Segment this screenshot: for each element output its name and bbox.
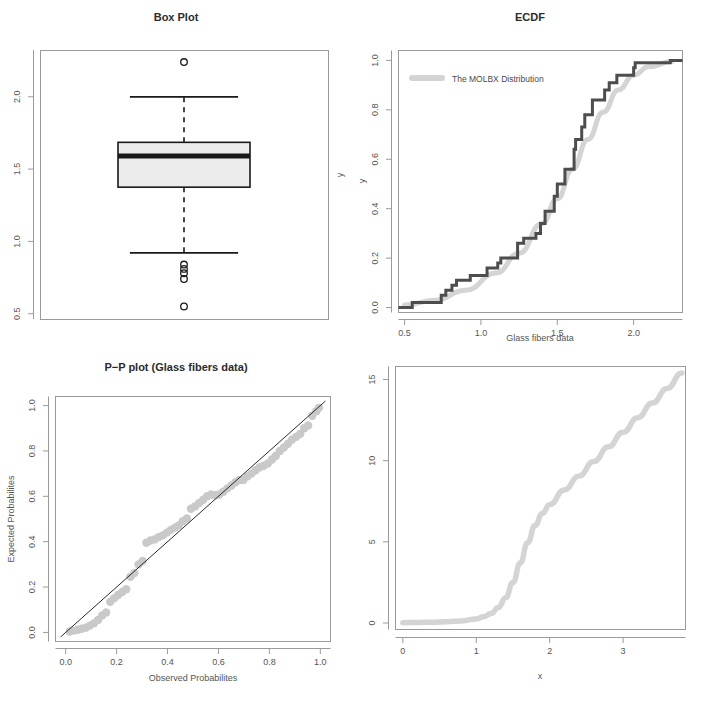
ecdf-x-tick: 0.5 bbox=[398, 328, 411, 338]
pp-plot-x-tick: 1.0 bbox=[314, 657, 327, 667]
ehrf-y-tick: 5 bbox=[367, 539, 377, 544]
ehrf-series bbox=[403, 373, 682, 623]
pp-plot-x-tick: 0.2 bbox=[110, 657, 123, 667]
ecdf-y-label: y bbox=[357, 178, 367, 183]
pp-plot-x-tick: 0.6 bbox=[212, 657, 225, 667]
box-outlier-point bbox=[181, 303, 188, 310]
panel-ecdf: ECDF 0.51.01.52.00.00.20.40.60.81.0 Glas… bbox=[354, 0, 707, 351]
ehrf-x-tick: 3 bbox=[621, 646, 626, 656]
ecdf-y-tick: 0.0 bbox=[370, 301, 380, 314]
box-plot-geometry bbox=[118, 59, 250, 310]
ecdf-x-tick: 2.0 bbox=[627, 328, 640, 338]
pp-plot-title: P−P plot (Glass fibers data) bbox=[104, 361, 247, 373]
ehrf-x-label: x bbox=[538, 671, 543, 681]
pp-plot-y-tick: 0.2 bbox=[27, 581, 37, 594]
ehrf-frame bbox=[396, 367, 686, 630]
box-plot-title: Box Plot bbox=[154, 11, 199, 23]
box-plot-y-axis: 0.51.01.52.0 bbox=[12, 50, 34, 320]
ehrf-x-tick: 1 bbox=[474, 646, 479, 656]
box-plot-y-tick: 2.0 bbox=[12, 91, 22, 104]
box-plot-y-label: y bbox=[335, 172, 345, 177]
ecdf-axes: 0.51.01.52.00.00.20.40.60.81.0 bbox=[370, 51, 683, 339]
box-plot-y-tick: 1.5 bbox=[12, 163, 22, 176]
ehrf-x-tick: 2 bbox=[547, 646, 552, 656]
pp-plot-point bbox=[130, 569, 138, 577]
pp-plot-point bbox=[304, 421, 312, 429]
ecdf-y-tick: 0.2 bbox=[370, 252, 380, 265]
pp-plot-points bbox=[61, 401, 326, 637]
panel-pp-plot: P−P plot (Glass fibers data) 0.00.20.40.… bbox=[0, 351, 353, 702]
box-plot-y-tick: 1.0 bbox=[12, 235, 22, 248]
pp-plot-x-tick: 0.0 bbox=[59, 657, 72, 667]
ecdf-fitted-curve bbox=[405, 62, 672, 305]
pp-plot-x-tick: 0.4 bbox=[161, 657, 174, 667]
ehrf-x-tick: 0 bbox=[400, 646, 405, 656]
panel-ehrf: 0123051015 x EHRF bbox=[354, 351, 707, 702]
ecdf-title: ECDF bbox=[515, 11, 545, 23]
ehrf-y-tick: 0 bbox=[367, 620, 377, 625]
pp-plot-reference-line bbox=[61, 401, 326, 637]
pp-plot-point bbox=[102, 608, 110, 616]
figure-panel-grid: Box Plot 0.51.01.52.0 y ECDF 0.51.01.52.… bbox=[0, 0, 707, 702]
pp-plot-y-label: Expected Probabilites bbox=[6, 475, 16, 563]
ecdf-y-tick: 0.6 bbox=[370, 153, 380, 166]
pp-plot-x-label: Observed Probabilites bbox=[149, 673, 238, 683]
panel-box-plot: Box Plot 0.51.01.52.0 y bbox=[0, 0, 353, 351]
pp-plot-x-tick: 0.8 bbox=[263, 657, 276, 667]
pp-plot-y-tick: 0.8 bbox=[27, 445, 37, 458]
ecdf-y-tick: 1.0 bbox=[370, 54, 380, 67]
box-outlier-point bbox=[181, 59, 188, 66]
ehrf-axes: 0123051015 bbox=[367, 367, 686, 657]
ehrf-y-tick: 15 bbox=[367, 374, 377, 384]
legend-label-molbx: The MOLBX Distribution bbox=[452, 74, 544, 84]
pp-plot-y-tick: 0.6 bbox=[27, 490, 37, 503]
ecdf-y-tick: 0.8 bbox=[370, 104, 380, 117]
pp-plot-point bbox=[315, 404, 323, 412]
ecdf-frame bbox=[399, 51, 683, 313]
ecdf-x-tick: 1.0 bbox=[475, 328, 488, 338]
ecdf-step-curve bbox=[399, 60, 683, 307]
box-iqr-rect bbox=[118, 142, 250, 187]
ehrf-y-tick: 10 bbox=[367, 456, 377, 466]
ecdf-series bbox=[399, 60, 683, 307]
ecdf-y-tick: 0.4 bbox=[370, 202, 380, 215]
pp-plot-y-tick: 0.0 bbox=[27, 626, 37, 639]
box-plot-y-tick: 0.5 bbox=[12, 307, 22, 320]
pp-plot-point bbox=[122, 585, 130, 593]
ecdf-x-label: Glass fibers data bbox=[506, 333, 574, 343]
pp-plot-y-tick: 1.0 bbox=[27, 399, 37, 412]
pp-plot-y-tick: 0.4 bbox=[27, 535, 37, 548]
ecdf-legend: The MOLBX Distribution bbox=[412, 74, 544, 84]
ehrf-curve-path bbox=[403, 373, 682, 623]
